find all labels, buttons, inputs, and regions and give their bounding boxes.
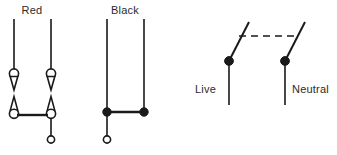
live-label: Live bbox=[195, 83, 216, 95]
wiring-diagram-svg: Red Black bbox=[0, 0, 337, 155]
black-group-label: Black bbox=[111, 4, 139, 16]
wiring-diagram-canvas: Red Black bbox=[0, 0, 337, 155]
red-group-label: Red bbox=[22, 4, 43, 16]
black-terminal-open-circle bbox=[103, 136, 110, 143]
neutral-label: Neutral bbox=[292, 83, 329, 95]
black-junction-right bbox=[140, 108, 148, 116]
red-terminal-open-circle bbox=[47, 136, 54, 143]
